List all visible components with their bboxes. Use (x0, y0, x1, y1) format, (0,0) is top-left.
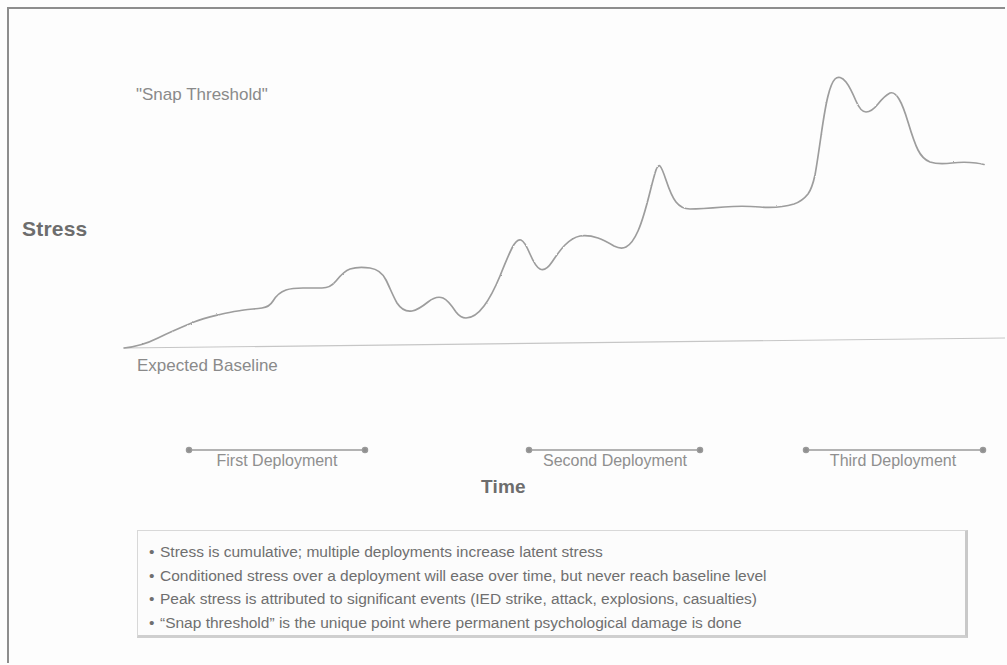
stress-curve (124, 77, 984, 348)
deployment-label-second: Second Deployment (530, 452, 700, 470)
note-item: •Conditioned stress over a deployment wi… (149, 564, 965, 588)
note-text: “Snap threshold” is the unique point whe… (160, 614, 742, 631)
x-axis-label: Time (481, 476, 526, 498)
note-text: Stress is cumulative; multiple deploymen… (160, 543, 603, 560)
notes-callout-box: •Stress is cumulative; multiple deployme… (137, 530, 968, 638)
note-item: •Stress is cumulative; multiple deployme… (149, 540, 965, 564)
bullet-icon: • (149, 564, 160, 588)
note-item: •“Snap threshold” is the unique point wh… (149, 611, 965, 635)
expected-baseline-line (124, 338, 1005, 348)
y-axis-label: Stress (22, 217, 87, 241)
chart-page: Stress Time "Snap Threshold" Expected Ba… (0, 0, 1007, 665)
note-item: •Peak stress is attributed to significan… (149, 587, 965, 611)
snap-threshold-label: "Snap Threshold" (136, 85, 268, 105)
bullet-icon: • (149, 540, 160, 564)
deployment-label-first: First Deployment (192, 452, 362, 470)
deployment-label-third: Third Deployment (806, 452, 980, 470)
expected-baseline-label: Expected Baseline (137, 356, 278, 376)
note-text: Peak stress is attributed to significant… (160, 590, 757, 607)
bullet-icon: • (149, 587, 160, 611)
bullet-icon: • (149, 611, 160, 635)
notes-list: •Stress is cumulative; multiple deployme… (149, 540, 965, 634)
note-text: Conditioned stress over a deployment wil… (160, 567, 767, 584)
